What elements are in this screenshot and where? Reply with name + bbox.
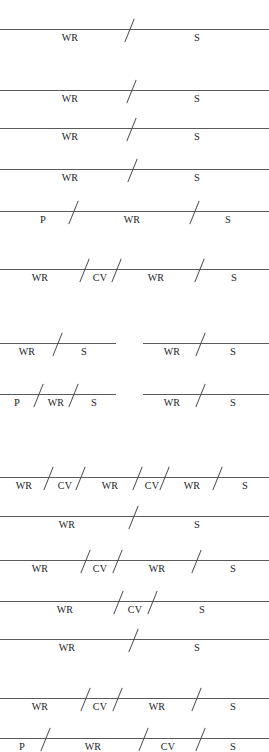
group-5: WRCVWRSPWRCVS [0,0,269,752]
segment-label-s: S [213,700,253,714]
segment-label-cv: CV [148,740,188,752]
row-15: PWRCVS [0,738,269,752]
baseline [0,698,269,699]
row-14: WRCVWRS [0,698,269,732]
segment-label-wr: WR [20,700,60,714]
tick-mark [191,688,201,712]
baseline [0,738,269,739]
segment-label-cv: CV [80,700,120,714]
segment-label-wr: WR [73,740,113,752]
segment-label-p: P [2,740,42,752]
segmented-line-diagram: WRSWRSWRSWRSPWRSWRCVWRSWRSWRSPWRSWRSWRCV… [0,0,269,752]
segment-label-wr: WR [137,700,177,714]
segment-label-s: S [213,740,253,752]
